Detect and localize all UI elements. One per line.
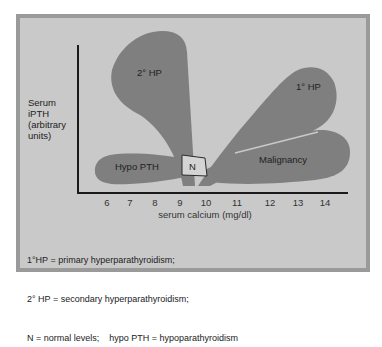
x-tick: 8 [152,197,157,208]
label-hypo-pth: Hypo PTH [115,161,159,172]
x-tick: 14 [320,197,331,208]
x-tick: 10 [201,197,212,208]
legend-line: 2° HP = secondary hyperparathyroidism; [27,293,238,306]
y-axis-label-line: Serum [28,97,66,108]
legend: 1°HP = primary hyperparathyroidism; 2° H… [27,228,238,347]
x-tick: 11 [232,197,242,208]
x-tick: 6 [104,197,109,208]
label-primary-hp: 1° HP [296,81,321,92]
x-axis-label: serum calcium (mg/dl) [158,209,251,220]
y-axis-label-line: units) [28,130,66,141]
x-tick: 7 [127,197,132,208]
x-tick: 13 [293,197,304,208]
legend-line: N = normal levels; hypo PTH = hypoparath… [27,332,238,345]
label-normal: N [189,161,196,172]
x-tick: 9 [177,197,182,208]
y-axis-label-line: iPTH [28,108,66,119]
label-secondary-hp: 2° HP [137,67,162,78]
y-axis-label-line: (arbitrary [28,119,66,130]
x-tick: 12 [265,197,276,208]
legend-line: 1°HP = primary hyperparathyroidism; [27,254,238,267]
y-axis-label: Serum iPTH (arbitrary units) [28,97,66,141]
label-malignancy: Malignancy [259,154,307,165]
